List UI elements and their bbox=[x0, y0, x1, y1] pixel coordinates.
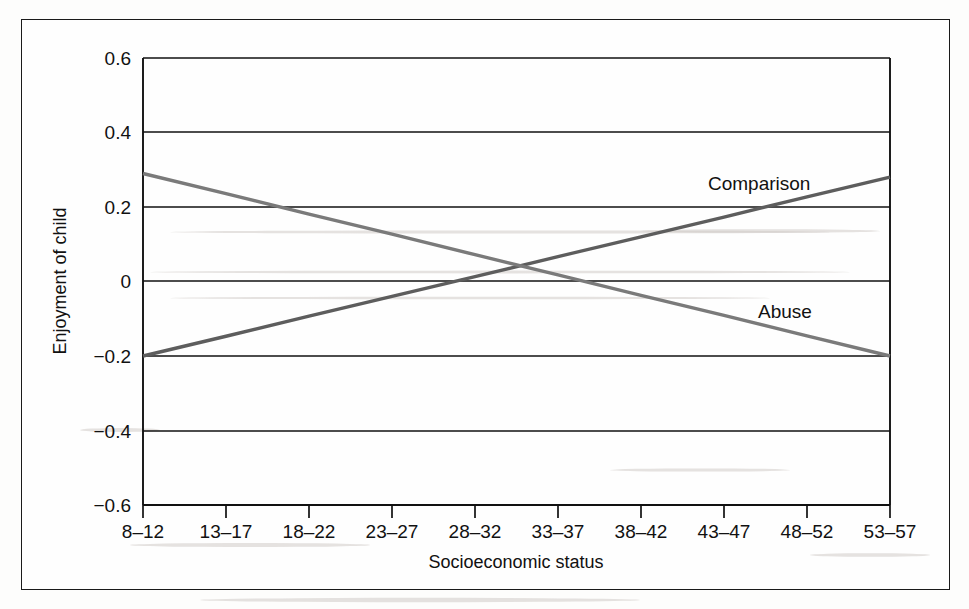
y-tick-label--0.2: −0.2 bbox=[93, 346, 131, 367]
x-tick-label-23-27: 23–27 bbox=[366, 521, 419, 542]
x-tick-label-8-12: 8–12 bbox=[122, 521, 164, 542]
x-tick-labels: 8–12 13–17 18–22 23–27 28–32 33–37 38–42… bbox=[122, 521, 917, 542]
y-tick-label-0: 0 bbox=[120, 271, 131, 292]
x-tick-label-33-37: 33–37 bbox=[532, 521, 585, 542]
y-tick-label--0.4: −0.4 bbox=[93, 421, 131, 442]
scan-noise bbox=[80, 229, 930, 602]
x-tick-label-18-22: 18–22 bbox=[283, 521, 336, 542]
x-tick-label-13-17: 13–17 bbox=[200, 521, 253, 542]
series-lines bbox=[143, 173, 890, 356]
x-tick-label-43-47: 43–47 bbox=[698, 521, 751, 542]
y-gridlines bbox=[143, 58, 890, 505]
x-tickmarks bbox=[143, 505, 890, 518]
line-chart: 0.6 0.4 0.2 0 −0.2 −0.4 −0.6 8–12 13–17 … bbox=[0, 0, 969, 609]
y-tick-label-0.6: 0.6 bbox=[105, 48, 131, 69]
series-label-abuse: Abuse bbox=[758, 301, 812, 322]
series-label-comparison: Comparison bbox=[708, 173, 810, 194]
x-tick-label-38-42: 38–42 bbox=[615, 521, 668, 542]
x-tick-label-48-52: 48–52 bbox=[781, 521, 834, 542]
x-tick-label-28-32: 28–32 bbox=[449, 521, 502, 542]
y-tick-label-0.2: 0.2 bbox=[105, 197, 131, 218]
x-axis-title: Socioeconomic status bbox=[428, 552, 603, 572]
y-tick-label-0.4: 0.4 bbox=[105, 122, 132, 143]
figure-container: 0.6 0.4 0.2 0 −0.2 −0.4 −0.6 8–12 13–17 … bbox=[0, 0, 969, 609]
y-tick-labels: 0.6 0.4 0.2 0 −0.2 −0.4 −0.6 bbox=[93, 48, 131, 516]
y-axis-title: Enjoyment of child bbox=[50, 207, 70, 354]
x-tick-label-53-57: 53–57 bbox=[864, 521, 917, 542]
y-tick-label--0.6: −0.6 bbox=[93, 495, 131, 516]
